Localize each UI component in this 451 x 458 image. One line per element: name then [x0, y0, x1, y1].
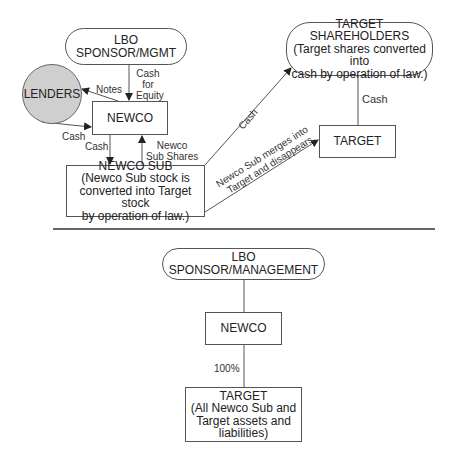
label-line: Newco: [146, 140, 198, 151]
node-desc-line: (All Newco Sub and: [191, 402, 296, 415]
edge-label-shareholders-target-cash: Cash: [362, 94, 388, 105]
label-line: Equity: [136, 90, 160, 101]
node-desc-line: (Target shares converted into: [287, 43, 432, 68]
node-label: LBO SPONSOR/MANAGEMENT: [163, 251, 324, 277]
node-title: TARGET SHAREHOLDERS: [287, 18, 432, 43]
node-desc-line: converted into Target stock: [67, 185, 204, 210]
node-desc-line: cash by operation of law.): [291, 68, 427, 81]
edge-label-cash-for-equity: Cash for Equity: [136, 68, 160, 101]
label-line: Cash: [136, 68, 160, 79]
node-label: NEWCO: [107, 112, 153, 125]
node-lenders: LENDERS: [22, 64, 82, 124]
edge-label-newco-sub-cash: Cash: [85, 141, 108, 152]
label-line: Sub Shares: [146, 151, 198, 162]
node-target-shareholders: TARGET SHAREHOLDERS (Target shares conve…: [286, 22, 433, 76]
node-label: LBO SPONSOR/MGMT: [66, 34, 186, 60]
node-newco-bottom: NEWCO: [205, 312, 282, 345]
node-target-bottom: TARGET (All Newco Sub and Target assets …: [185, 387, 302, 442]
node-label: NEWCO: [221, 322, 267, 335]
node-label: LENDERS: [24, 88, 81, 101]
node-lbo-sponsor-mgmt: LBO SPONSOR/MGMT: [65, 28, 187, 65]
node-desc-line: liabilities): [219, 427, 268, 440]
node-lbo-sponsor-management: LBO SPONSOR/MANAGEMENT: [162, 248, 325, 280]
node-label: TARGET: [334, 135, 382, 148]
edge-label-newco-sub-shares: Newco Sub Shares: [146, 140, 198, 162]
node-desc-line: (Newco Sub stock is: [81, 172, 190, 185]
edge-label-notes: Notes: [96, 84, 122, 95]
node-desc-line: by operation of law.): [82, 210, 189, 223]
label-line: for: [136, 79, 160, 90]
edge-label-lenders-cash: Cash: [62, 131, 85, 142]
node-newco-sub: NEWCO SUB (Newco Sub stock is converted …: [66, 165, 205, 217]
node-target: TARGET: [319, 125, 396, 158]
edge-label-ownership: 100%: [214, 363, 240, 374]
node-newco: NEWCO: [92, 101, 168, 135]
